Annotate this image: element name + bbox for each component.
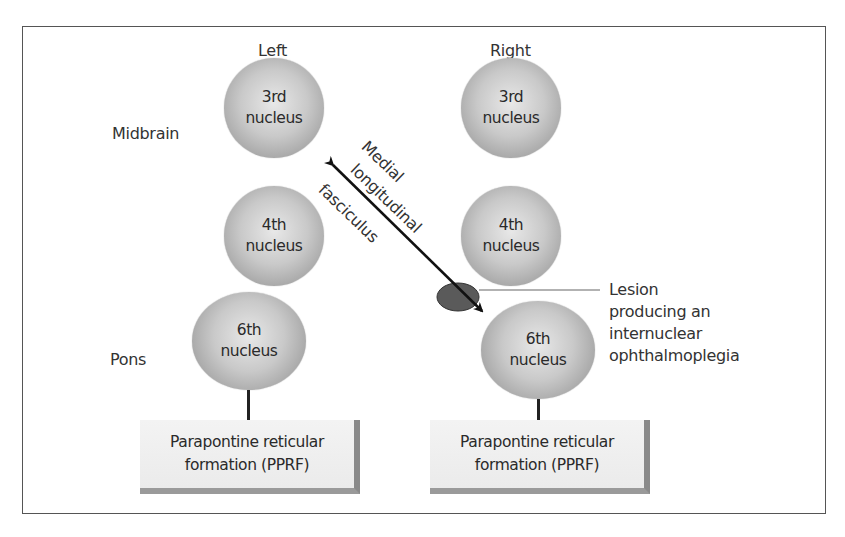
lesion-text-line4: ophthalmoplegia: [609, 345, 739, 367]
mlf-double-arrow: [333, 165, 482, 311]
lesion-text-line2: producing an: [609, 301, 739, 323]
lesion-text-line1: Lesion: [609, 279, 739, 301]
lesion-text-line3: internuclear: [609, 323, 739, 345]
lesion-annotation: Lesion producing an internuclear ophthal…: [609, 279, 739, 367]
mlf-arrow-layer: [0, 0, 845, 537]
